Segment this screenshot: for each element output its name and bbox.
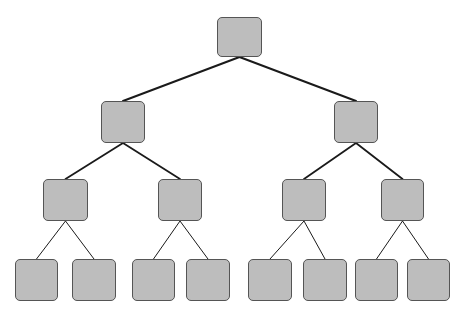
tree-node-leaf — [15, 259, 58, 301]
tree-node-leaf — [248, 259, 292, 301]
tree-node-leaf — [132, 259, 175, 301]
tree-edge — [356, 143, 403, 179]
tree-edge — [240, 57, 357, 101]
tree-edge — [304, 143, 356, 179]
tree-edge — [403, 221, 429, 259]
tree-edge — [123, 57, 240, 101]
tree-node — [101, 101, 145, 143]
tree-node-leaf — [407, 259, 450, 301]
tree-edge — [37, 221, 66, 259]
tree-edge — [377, 221, 403, 259]
tree-diagram — [0, 0, 463, 314]
tree-node — [158, 179, 202, 221]
tree-node — [43, 179, 88, 221]
tree-node-root — [217, 17, 262, 57]
tree-node — [334, 101, 378, 143]
tree-edge — [270, 221, 304, 259]
tree-node-leaf — [355, 259, 398, 301]
tree-node-leaf — [72, 259, 116, 301]
tree-edge — [180, 221, 208, 259]
tree-edge — [304, 221, 325, 259]
tree-edge — [66, 143, 124, 179]
tree-edge — [66, 221, 95, 259]
tree-node-leaf — [303, 259, 347, 301]
tree-edge — [123, 143, 180, 179]
tree-node — [381, 179, 424, 221]
tree-node — [282, 179, 326, 221]
tree-node-leaf — [186, 259, 230, 301]
tree-edge — [154, 221, 181, 259]
